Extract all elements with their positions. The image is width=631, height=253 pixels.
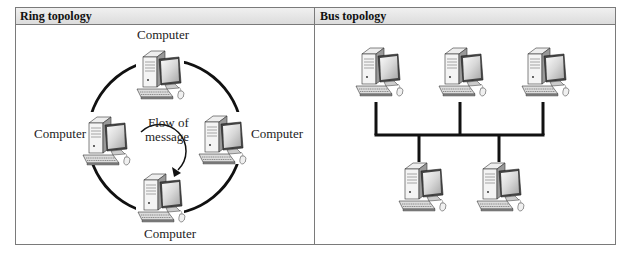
ring-node-label-top: Computer [137, 27, 189, 43]
computer-icon [399, 163, 446, 211]
bus-topology-diagram [356, 48, 569, 211]
flow-label-line2: message [145, 129, 189, 145]
diagram-canvas [0, 0, 631, 253]
computer-icon [522, 48, 569, 96]
ring-node-label-right: Computer [251, 126, 303, 142]
computer-icon [477, 163, 524, 211]
computer-icon [439, 48, 486, 96]
ring-node-label-bottom: Computer [144, 226, 196, 242]
computer-icon [356, 48, 403, 96]
ring-node-label-left: Computer [34, 126, 86, 142]
